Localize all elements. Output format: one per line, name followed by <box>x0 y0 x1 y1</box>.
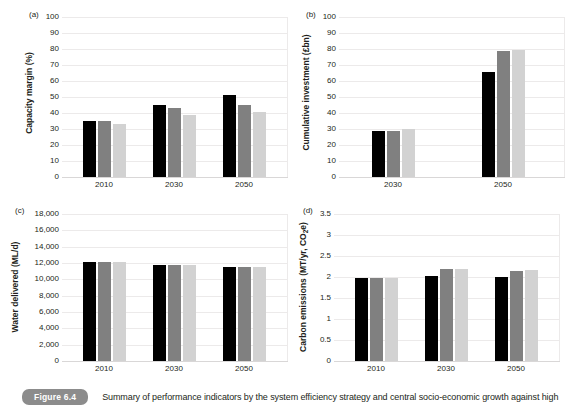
bar <box>183 265 196 361</box>
gridline <box>62 361 288 362</box>
panel-b-plot-area: 100908070605040302010020302050 <box>339 17 565 177</box>
gridline <box>62 177 288 178</box>
y-axis-tick-label: 18,000 <box>35 210 59 218</box>
y-axis-tick-label: 80 <box>50 45 59 53</box>
y-axis-tick-label: 2,000 <box>39 341 59 349</box>
bar <box>455 269 468 361</box>
panel-a-plot-area: 1009080706050403020100201020302050 <box>62 17 288 177</box>
panel-c: (c) Water delivered (ML/d) 18,00016,0001… <box>0 200 292 382</box>
bar <box>168 108 181 177</box>
panel-a-tag: (a) <box>29 10 39 19</box>
gridline <box>339 177 565 178</box>
panel-a: (a) Capacity margin (%) 1009080706050403… <box>0 0 292 200</box>
y-axis-tick-label: 40 <box>327 109 336 117</box>
y-axis-tick-label: 10 <box>50 157 59 165</box>
y-axis-tick-label: 30 <box>327 125 336 133</box>
bar <box>525 270 538 361</box>
x-axis-tick-label: 2050 <box>235 180 253 189</box>
bar <box>113 124 126 177</box>
x-axis-tick-label: 2010 <box>367 364 385 373</box>
bar-group <box>369 17 417 177</box>
bar <box>385 278 398 361</box>
y-axis-tick-label: 12,000 <box>35 259 59 267</box>
panel-grid: (a) Capacity margin (%) 1009080706050403… <box>0 0 583 382</box>
x-axis-tick-label: 2050 <box>494 180 512 189</box>
y-axis-tick-label: 0 <box>332 173 336 181</box>
bar <box>223 95 236 177</box>
y-axis-tick-label: 4,000 <box>39 324 59 332</box>
bar <box>425 276 438 361</box>
bar-group <box>422 214 470 361</box>
bar-group <box>492 214 540 361</box>
bar-group <box>220 17 268 177</box>
panel-b-tag: (b) <box>306 10 316 19</box>
gridline <box>334 361 560 362</box>
bar <box>510 271 523 361</box>
y-axis-tick-label: 100 <box>323 13 336 21</box>
bar <box>482 72 495 177</box>
x-axis-tick-label: 2030 <box>437 364 455 373</box>
y-axis-tick-label: 16,000 <box>35 226 59 234</box>
bar <box>168 265 181 361</box>
panel-b: (b) Cumulative investment (£bn) 10090807… <box>292 0 583 200</box>
y-axis-tick-label: 90 <box>327 29 336 37</box>
y-axis-tick-label: 70 <box>327 61 336 69</box>
x-axis-tick-label: 2030 <box>165 180 183 189</box>
bar <box>153 265 166 361</box>
y-axis-tick-label: 90 <box>50 29 59 37</box>
plot-right-edge <box>287 17 288 177</box>
x-axis-tick-label: 2050 <box>235 364 253 373</box>
panel-b-y-axis-title: Cumulative investment (£bn) <box>301 5 311 180</box>
y-axis-tick-label: 0 <box>327 357 331 365</box>
bar <box>495 277 508 361</box>
panel-c-tag: (c) <box>15 206 24 215</box>
x-axis-tick-label: 2030 <box>384 180 402 189</box>
bar-group <box>150 17 198 177</box>
bar <box>355 278 368 361</box>
figure-number-badge: Figure 6.4 <box>22 389 88 405</box>
panel-d-plot-area: 3.532.521.510.50201020302050 <box>334 214 560 361</box>
bar <box>370 278 383 361</box>
bar <box>183 115 196 177</box>
x-axis-tick-label: 2050 <box>507 364 525 373</box>
plot-right-edge <box>564 17 565 177</box>
panel-d-y-axis-title: Carbon emissions (MT/yr, CO2e) <box>298 202 308 372</box>
bar-group <box>352 214 400 361</box>
y-axis-tick-label: 2.5 <box>320 252 331 260</box>
x-axis-tick-label: 2010 <box>95 180 113 189</box>
bar <box>387 131 400 177</box>
bar <box>372 131 385 177</box>
bar <box>497 51 510 177</box>
figure-caption: Figure 6.4 Summary of performance indica… <box>0 386 583 408</box>
bar <box>83 262 96 361</box>
y-axis-tick-label: 50 <box>327 93 336 101</box>
bar <box>153 105 166 177</box>
y-axis-tick-label: 10 <box>327 157 336 165</box>
panel-c-y-axis-title: Water delivered (ML/d) <box>10 207 20 367</box>
y-axis-tick-label: 1 <box>327 315 331 323</box>
y-axis-tick-label: 3 <box>327 231 331 239</box>
y-axis-tick-label: 60 <box>50 77 59 85</box>
bar <box>98 262 111 361</box>
y-axis-tick-label: 30 <box>50 125 59 133</box>
plot-right-edge <box>287 214 288 361</box>
y-axis-tick-label: 0 <box>55 173 59 181</box>
panel-d-tag: (d) <box>303 206 313 215</box>
y-axis-tick-label: 60 <box>327 77 336 85</box>
y-axis-tick-label: 10,000 <box>35 275 59 283</box>
x-axis-tick-label: 2030 <box>165 364 183 373</box>
bar <box>512 50 525 177</box>
y-axis-tick-label: 50 <box>50 93 59 101</box>
y-axis-tick-label: 3.5 <box>320 210 331 218</box>
bar-group <box>80 17 128 177</box>
figure-container: (a) Capacity margin (%) 1009080706050403… <box>0 0 583 408</box>
y-axis-tick-label: 6,000 <box>39 308 59 316</box>
bar <box>238 105 251 177</box>
y-axis-tick-label: 1.5 <box>320 294 331 302</box>
y-axis-tick-label: 100 <box>46 13 59 21</box>
bar-group <box>80 214 128 361</box>
bar <box>402 129 415 177</box>
bar-group <box>479 17 527 177</box>
bar <box>440 269 453 361</box>
y-axis-tick-label: 2 <box>327 273 331 281</box>
